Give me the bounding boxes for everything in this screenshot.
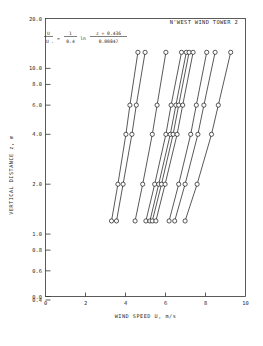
data-point-marker — [130, 132, 134, 136]
data-point-marker — [177, 182, 181, 186]
x-axis-tick-label: 4 — [124, 300, 127, 306]
equation-annotation: UU*=10.4lnz + 0.4360.00847 — [44, 31, 127, 45]
series-line — [175, 52, 215, 221]
series-line — [150, 52, 186, 221]
equation-part: U — [46, 39, 49, 44]
series-line — [117, 52, 146, 221]
data-point-marker — [167, 219, 171, 223]
data-point-marker — [164, 132, 168, 136]
x-axis-tick-label: 0 — [44, 300, 47, 306]
data-point-marker — [114, 219, 118, 223]
data-point-marker — [133, 219, 137, 223]
x-axis-tick-label: 8 — [204, 300, 207, 306]
data-point-marker — [181, 103, 185, 107]
series-line — [135, 52, 166, 221]
equation-part: ln — [80, 36, 86, 41]
data-point-marker — [163, 182, 167, 186]
data-point-marker — [121, 182, 125, 186]
x-axis-label: WIND SPEED U, m/s — [115, 313, 177, 319]
data-point-marker — [153, 182, 157, 186]
data-point-marker — [179, 50, 183, 54]
y-axis-tick-label: 0.8 — [32, 247, 42, 253]
series-line — [112, 52, 138, 221]
data-point-marker — [202, 103, 206, 107]
data-point-marker — [213, 50, 217, 54]
equation-part: 0.4 — [66, 39, 75, 44]
data-point-marker — [195, 182, 199, 186]
equation-part: * — [52, 41, 54, 45]
data-point-marker — [189, 132, 193, 136]
x-axis-tick-label: 6 — [164, 300, 167, 306]
data-series — [148, 50, 189, 223]
data-point-marker — [183, 219, 187, 223]
data-point-marker — [134, 103, 138, 107]
y-axis-tick-label: 4.0 — [32, 131, 42, 137]
data-point-marker — [216, 103, 220, 107]
wind-profile-chart: 024681020.010.08.06.04.02.01.00.80.60.40… — [0, 0, 263, 346]
y-axis-tick-label: 0.6 — [32, 268, 42, 274]
x-axis-tick-label: 2 — [84, 300, 87, 306]
data-point-marker — [187, 50, 191, 54]
y-axis-tick-label: 8.0 — [32, 81, 42, 87]
data-point-marker — [205, 50, 209, 54]
data-point-marker — [229, 50, 233, 54]
data-point-marker — [171, 132, 175, 136]
data-point-marker — [150, 132, 154, 136]
data-point-marker — [196, 132, 200, 136]
data-point-marker — [194, 103, 198, 107]
x-axis-tick-label: 10 — [242, 300, 249, 306]
chart-figure: 024681020.010.08.06.04.02.01.00.80.60.40… — [0, 0, 263, 346]
data-point-marker — [209, 132, 213, 136]
data-series — [109, 50, 140, 223]
data-point-marker — [191, 50, 195, 54]
data-point-marker — [154, 219, 158, 223]
data-point-marker — [144, 219, 148, 223]
data-point-marker — [141, 182, 145, 186]
y-axis-tick-label: 10.0 — [29, 65, 42, 71]
data-point-marker — [173, 219, 177, 223]
y-axis-tick-label: 0.0 — [32, 294, 42, 300]
data-point-marker — [128, 103, 132, 107]
equation-part: z + 0.436 — [96, 31, 121, 36]
chart-title: N'WEST WIND TOWER 2 — [170, 19, 238, 25]
series-line — [185, 52, 231, 221]
data-series — [154, 50, 195, 223]
y-axis-tick-label: 2.0 — [32, 181, 42, 187]
plot-frame — [46, 19, 246, 297]
data-point-marker — [169, 103, 173, 107]
series-line — [146, 52, 182, 221]
data-point-marker — [136, 50, 140, 54]
y-axis-tick-label: 6.0 — [32, 102, 42, 108]
equation-part: 0.00847 — [99, 39, 119, 44]
equation-part: U — [47, 31, 50, 36]
data-series — [133, 50, 168, 223]
y-axis-tick-label: 1.0 — [32, 231, 42, 237]
data-point-marker — [177, 103, 181, 107]
data-point-marker — [143, 50, 147, 54]
equation-part: = — [57, 36, 60, 41]
data-point-marker — [175, 132, 179, 136]
data-point-marker — [109, 219, 113, 223]
y-axis-label: VERTICAL DISTANCE z, m — [8, 135, 14, 215]
data-point-marker — [124, 132, 128, 136]
equation-part: 1 — [69, 31, 72, 36]
y-axis-tick-label: 20.0 — [29, 16, 42, 22]
data-point-marker — [183, 182, 187, 186]
data-point-marker — [155, 103, 159, 107]
data-point-marker — [164, 50, 168, 54]
data-point-marker — [116, 182, 120, 186]
data-series — [114, 50, 147, 223]
